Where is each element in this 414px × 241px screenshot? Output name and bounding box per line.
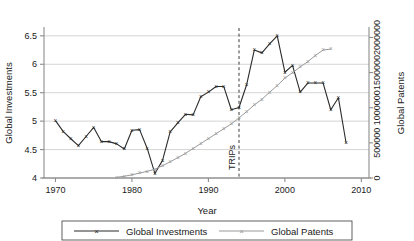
data-point-marker: × xyxy=(107,138,111,145)
data-point-marker: × xyxy=(191,111,195,118)
data-point-marker: × xyxy=(122,173,126,180)
data-point-marker: × xyxy=(252,46,256,53)
data-point-marker: × xyxy=(184,150,188,157)
data-point-marker: × xyxy=(245,81,249,88)
data-point-marker: × xyxy=(92,124,96,131)
x-axis-title: Year xyxy=(197,205,216,216)
data-point-marker: × xyxy=(214,83,218,90)
data-point-marker: × xyxy=(199,93,203,100)
gridlines xyxy=(44,36,369,178)
data-point-marker: × xyxy=(298,63,302,70)
data-point-marker: × xyxy=(275,32,279,39)
data-point-marker: × xyxy=(329,106,333,113)
data-point-marker: × xyxy=(252,101,256,108)
data-point-marker: × xyxy=(207,135,211,142)
xtick-label-4: 2010 xyxy=(351,185,371,195)
legend-item-global-investments[interactable]: × Global Investments xyxy=(74,226,208,237)
data-point-marker: × xyxy=(207,88,211,95)
data-point-marker: × xyxy=(184,111,188,118)
data-point-marker: × xyxy=(168,128,172,135)
data-point-marker: × xyxy=(268,89,272,96)
data-point-marker: × xyxy=(229,106,233,113)
data-point-marker: × xyxy=(298,88,302,95)
ytick-label-right-3: 1500000 xyxy=(372,55,382,90)
ytick-label-right-4: 2000000 xyxy=(372,20,382,55)
xtick-label-0: 1970 xyxy=(45,185,65,195)
legend-marker-x-1: × xyxy=(239,227,244,236)
chart-figure: TRIPs ××××××××××××××××××××××××××××××××××… xyxy=(0,0,414,241)
data-point-marker: × xyxy=(61,128,65,135)
data-point-marker: × xyxy=(77,142,81,149)
data-point-marker: × xyxy=(115,174,119,181)
data-point-marker: × xyxy=(306,79,310,86)
ytick-label-left-2: 5 xyxy=(32,116,37,126)
data-point-marker: × xyxy=(122,145,126,152)
data-point-marker: × xyxy=(130,127,134,134)
data-point-marker: × xyxy=(237,114,241,121)
legend-marker-x-0: × xyxy=(94,227,99,236)
series-line-global-investments xyxy=(55,36,346,174)
ytick-label-left-1: 4.5 xyxy=(24,145,37,155)
data-point-marker: × xyxy=(199,140,203,147)
data-point-marker: × xyxy=(115,140,119,147)
axis-ticks xyxy=(40,36,373,182)
xtick-label-1: 1980 xyxy=(122,185,142,195)
data-point-marker: × xyxy=(153,166,157,173)
data-point-marker: × xyxy=(291,69,295,76)
data-point-marker: × xyxy=(283,74,287,81)
data-point-marker: × xyxy=(99,138,103,145)
data-point-marker: × xyxy=(168,158,172,165)
data-point-marker: × xyxy=(69,135,73,142)
data-point-marker: × xyxy=(222,83,226,90)
data-series: ××××××××××××××××××××××××××××××××××××××××… xyxy=(54,32,349,180)
data-point-marker: × xyxy=(145,168,149,175)
y-axis-title-right: Global Patents xyxy=(395,72,406,135)
data-point-marker: × xyxy=(191,145,195,152)
data-point-marker: × xyxy=(268,40,272,47)
data-point-marker: × xyxy=(138,126,142,133)
data-point-marker: × xyxy=(306,58,310,65)
data-point-marker: × xyxy=(275,82,279,89)
data-point-marker: × xyxy=(260,96,264,103)
dual-axis-line-chart: TRIPs ××××××××××××××××××××××××××××××××××… xyxy=(0,0,414,241)
data-point-marker: × xyxy=(176,119,180,126)
chart-legend: × Global Investments × Global Patents xyxy=(62,221,352,240)
legend-label-1: Global Patents xyxy=(271,226,334,237)
data-point-marker: × xyxy=(314,79,318,86)
ytick-label-right-1: 500000 xyxy=(372,128,382,158)
data-point-marker: × xyxy=(329,45,333,52)
data-point-marker: × xyxy=(138,169,142,176)
data-point-marker: × xyxy=(344,139,348,146)
data-point-marker: × xyxy=(337,94,341,101)
data-point-marker: × xyxy=(314,52,318,59)
data-point-marker: × xyxy=(214,130,218,137)
data-point-marker: × xyxy=(321,79,325,86)
xtick-label-2: 1990 xyxy=(198,185,218,195)
data-point-marker: × xyxy=(145,145,149,152)
data-point-marker: × xyxy=(176,154,180,161)
data-point-marker: × xyxy=(291,62,295,69)
ytick-label-left-5: 6.5 xyxy=(24,31,37,41)
ytick-label-left-0: 4 xyxy=(32,173,37,183)
data-point-marker: × xyxy=(84,133,88,140)
data-point-marker: × xyxy=(130,171,134,178)
ytick-label-left-4: 6 xyxy=(32,59,37,69)
data-point-marker: × xyxy=(321,46,325,53)
data-point-marker: × xyxy=(222,125,226,132)
annotation-label-trips: TRIPs xyxy=(227,144,237,170)
xtick-label-3: 2000 xyxy=(275,185,295,195)
data-point-marker: × xyxy=(229,120,233,127)
data-point-marker: × xyxy=(260,49,264,56)
data-point-marker: × xyxy=(245,108,249,115)
ytick-label-right-2: 1000000 xyxy=(372,90,382,125)
data-point-marker: × xyxy=(237,104,241,111)
legend-label-0: Global Investments xyxy=(126,226,208,237)
ytick-label-right-0: 0 xyxy=(372,175,382,180)
y-axis-title-left: Global Investments xyxy=(3,62,14,144)
data-point-marker: × xyxy=(161,162,165,169)
ytick-label-left-3: 5.5 xyxy=(24,88,37,98)
data-point-marker: × xyxy=(54,117,58,124)
